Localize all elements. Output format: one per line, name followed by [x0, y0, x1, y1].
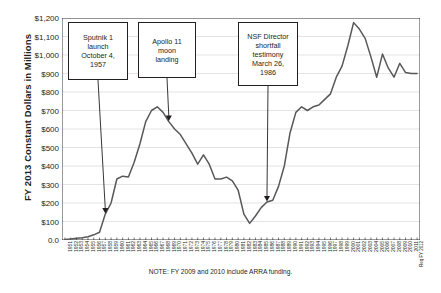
chart-footnote: NOTE: FY 2009 and 2010 include ARRA fund…: [0, 268, 441, 275]
annotation-line: shortfall: [255, 41, 280, 50]
annotation-line: launch: [87, 42, 108, 51]
x-axis-tick-labels: 1951195219531954195519561957195819591960…: [62, 241, 420, 271]
annotation-line: landing: [155, 55, 178, 64]
x-tick-label: 1995: [321, 241, 327, 252]
annotation-line: March 26,: [252, 59, 284, 68]
y-tick-label: $700: [41, 106, 59, 115]
y-tick-label: $1,200: [35, 14, 59, 23]
y-tick-label: $500: [41, 143, 59, 152]
y-tick-label: $600: [41, 125, 59, 134]
x-tick-label: Req FY 2012: [419, 241, 424, 267]
x-tick-label: 1951: [67, 241, 73, 252]
nsf-funding-line-chart: FY 2013 Constant Dollars in Millions $1,…: [0, 0, 441, 293]
annotation-box-apollo: Apollo 11moonlanding: [138, 22, 196, 78]
annotation-line: Sputnik 1: [83, 33, 113, 42]
y-tick-label: $200: [41, 199, 59, 208]
y-tick-label: 0.0: [48, 236, 59, 245]
y-tick-label: $900: [41, 69, 59, 78]
x-tick-label: 2008: [396, 241, 402, 252]
annotation-line: October 4,: [81, 51, 115, 60]
annotation-line: Apollo 11: [152, 37, 181, 46]
x-tick-label: 1955: [90, 241, 96, 252]
x-tick-label: 1960: [119, 241, 125, 252]
annotation-line: 1986: [260, 68, 276, 77]
annotation-line: 1957: [90, 60, 106, 69]
y-tick-label: $300: [41, 180, 59, 189]
x-tick-label: 1991: [298, 241, 304, 252]
x-tick-label: 1977: [217, 241, 223, 252]
annotation-box-sputnik: Sputnik 1launchOctober 4,1957: [68, 22, 128, 80]
x-tick-label: 1982: [246, 241, 252, 252]
x-tick-label: 1964: [142, 241, 148, 252]
annotation-line: testimony: [253, 50, 284, 59]
annotation-box-nsf-testimony: NSF DirectorshortfalltestimonyMarch 26,1…: [238, 22, 298, 86]
y-tick-label: $1,100: [35, 32, 59, 41]
x-tick-label: 1973: [194, 241, 200, 252]
x-tick-label: 2004: [373, 241, 379, 252]
x-tick-label: 1986: [269, 241, 275, 252]
annotation-line: NSF Director: [247, 32, 289, 41]
y-axis-tick-labels: $1,200$1,100$1,000$900$800$700$600$500$4…: [0, 18, 59, 240]
y-tick-label: $1,000: [35, 51, 59, 60]
y-tick-label: $400: [41, 162, 59, 171]
y-tick-label: $800: [41, 88, 59, 97]
y-tick-label: $100: [41, 217, 59, 226]
annotation-line: moon: [158, 46, 176, 55]
